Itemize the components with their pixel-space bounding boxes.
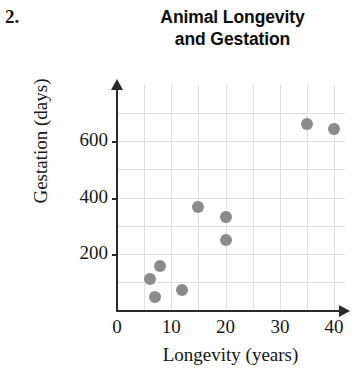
x-tick-label: 0: [97, 316, 137, 338]
gridline-horizontal: [117, 113, 345, 114]
chart-title-line-2: and Gestation: [110, 28, 355, 50]
x-tick-label: 10: [151, 316, 191, 338]
gridline-horizontal: [117, 226, 345, 227]
y-axis-title: Gestation (days): [30, 41, 52, 241]
data-point: [149, 291, 161, 303]
gridline-horizontal: [117, 198, 345, 199]
y-tick-label: 400: [60, 186, 108, 208]
y-axis-tick: [112, 198, 118, 200]
problem-number: 2.: [5, 6, 19, 28]
y-axis-tick: [112, 254, 118, 256]
x-tick-label: 30: [260, 316, 300, 338]
data-point: [144, 273, 156, 285]
data-point: [301, 118, 313, 130]
gridline-horizontal: [117, 169, 345, 170]
data-point: [192, 201, 204, 213]
y-tick-label: 200: [60, 242, 108, 264]
y-axis-line: [116, 88, 118, 312]
data-point: [154, 260, 166, 272]
chart-title: Animal Longevity and Gestation: [110, 6, 355, 51]
data-point: [220, 234, 232, 246]
data-point: [328, 123, 340, 135]
gridline-horizontal: [117, 254, 345, 255]
x-tick-label: 40: [314, 316, 354, 338]
chart-title-line-1: Animal Longevity: [110, 6, 355, 28]
x-tick-label: 20: [206, 316, 246, 338]
y-axis-arrow-icon: [111, 79, 123, 90]
data-point: [220, 211, 232, 223]
x-axis-title: Longevity (years): [108, 344, 353, 366]
data-point: [176, 284, 188, 296]
y-axis-tick: [112, 141, 118, 143]
gridline-horizontal: [117, 141, 345, 142]
plot-area: [117, 85, 345, 310]
y-tick-label: 600: [60, 129, 108, 151]
chart-figure: 2. Animal Longevity and Gestation 200400…: [0, 0, 358, 383]
x-axis-line: [116, 310, 341, 312]
